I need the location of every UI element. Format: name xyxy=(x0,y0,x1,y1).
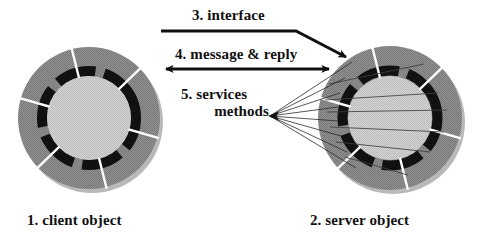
label-message-reply: 4. message & reply xyxy=(175,46,297,63)
client-object-graphic[interactable] xyxy=(10,32,168,204)
label-interface: 3. interface xyxy=(192,7,265,24)
label-server-object: 2. server object xyxy=(310,212,409,229)
diagram-canvas: 3. interface 4. message & reply 5. servi… xyxy=(0,0,485,246)
client-object-hub-cover xyxy=(48,77,130,159)
server-object-hub-cover xyxy=(349,77,431,159)
label-methods: methods xyxy=(181,103,269,120)
services-methods-arrowhead xyxy=(268,112,279,121)
label-services: 5. services xyxy=(181,86,269,103)
label-client-object: 1. client object xyxy=(27,212,122,229)
diagram-svg xyxy=(0,0,485,246)
server-object-graphic[interactable] xyxy=(310,31,470,206)
